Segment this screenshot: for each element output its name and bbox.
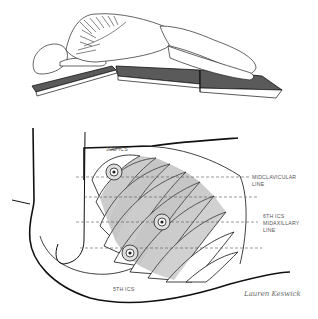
label-5th-ics: 5TH ICS [113,286,134,292]
port-5th-ics [122,245,138,261]
label-midclavicular: MIDCLAVICULAR [252,174,296,180]
artist-signature: Lauren Keswick [244,290,301,298]
label-midaxillary: MIDAXILLARY [263,220,299,226]
port-3rd-ics [106,164,122,180]
medical-illustration: 3RD ICS MIDCLAVICULAR LINE 6TH ICS MIDAX… [0,0,318,319]
illustration-canvas [0,0,318,319]
label-6th-ics: 6TH ICS [263,213,284,219]
label-midclavicular-line: LINE [252,181,264,187]
label-midaxillary-line: LINE [263,227,275,233]
port-6th-ics [154,214,170,230]
label-3rd-ics: 3RD ICS [106,146,128,152]
